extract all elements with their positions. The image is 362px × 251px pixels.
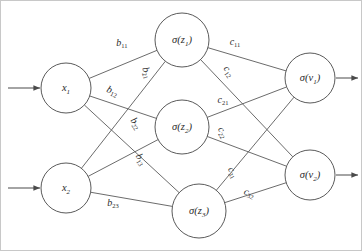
edge-x2-z1 [81, 61, 165, 168]
weight-label-b13: b13 [132, 152, 148, 168]
weight-label-c11: c11 [230, 36, 241, 48]
node-z1: σ(z1) [155, 13, 209, 67]
edge-z3-v2 [225, 183, 287, 203]
edge-z1-v2 [201, 60, 293, 157]
weight-label-c22: c22 [215, 125, 231, 140]
node-z3: σ(z3) [172, 184, 226, 238]
weight-label-c21: c21 [218, 94, 229, 106]
weight-label-b12: b12 [105, 84, 120, 100]
weight-label-b22: b22 [127, 115, 144, 131]
edge-x2-z3 [91, 192, 173, 206]
diagram-canvas: x1x2σ(z1)σ(z2)σ(z3)σ(v1)σ(v2) b11b12b13b… [0, 0, 362, 251]
edge-x2-z2 [88, 140, 158, 177]
node-v1: σ(v1) [285, 53, 335, 103]
edge-z2-v2 [207, 136, 286, 166]
node-x1: x1 [41, 63, 91, 113]
nodes-group: x1x2σ(z1)σ(z2)σ(z3)σ(v1)σ(v2) [41, 13, 335, 238]
weight-label-b23: b23 [107, 197, 119, 209]
node-x2: x2 [41, 163, 91, 213]
neural-network-diagram: x1x2σ(z1)σ(z2)σ(z3)σ(v1)σ(v2) b11b12b13b… [0, 0, 362, 251]
edge-z1-v1 [208, 48, 286, 71]
node-v2: σ(v2) [285, 150, 335, 200]
node-z2: σ(z2) [155, 100, 209, 154]
weight-label-b11: b11 [116, 37, 127, 49]
weight-label-c12: c12 [220, 64, 236, 80]
